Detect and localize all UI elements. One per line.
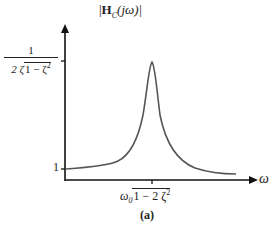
y-axis-label: |HC(jω)|: [99, 2, 142, 20]
y-axis-arrow-icon: [61, 24, 69, 33]
x-axis-label: ω: [259, 171, 269, 187]
peak-frequency-label: ω01 − 2 ζ2: [120, 188, 170, 205]
baseline-value-label: 1: [53, 160, 59, 175]
figure-caption: (a): [140, 208, 154, 223]
peak-value-label: 1 2 ζ1 − ζ2: [4, 44, 58, 76]
magnitude-curve: [66, 62, 236, 174]
x-axis-arrow-icon: [249, 176, 258, 184]
